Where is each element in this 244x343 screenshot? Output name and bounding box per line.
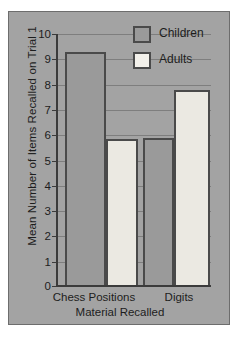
ytick-label-1: 1: [32, 257, 51, 269]
ytick-label-4: 4: [32, 181, 51, 193]
xtick-label-chess-positions: Chess Positions: [44, 291, 144, 303]
children-swatch-icon: [133, 26, 151, 43]
ytick-label-10: 10: [32, 29, 51, 41]
x-axis-line: [56, 285, 211, 287]
legend-label-children: Children: [159, 26, 204, 40]
ytick-label-7: 7: [32, 105, 51, 117]
ytick-label-3: 3: [32, 206, 51, 218]
y-axis-line: [56, 34, 58, 287]
bar-children-chess-positions[interactable]: [65, 52, 106, 287]
x-axis-title: Material Recalled: [9, 306, 231, 318]
xtick-label-digits: Digits: [144, 291, 214, 303]
ytick-label-5: 5: [32, 156, 51, 168]
bar-children-digits[interactable]: [143, 138, 174, 287]
ytick-label-9: 9: [32, 54, 51, 66]
legend-label-adults: Adults: [159, 52, 192, 66]
ytick-label-6: 6: [32, 130, 51, 142]
bar-adults-chess-positions[interactable]: [106, 139, 138, 287]
ytick-label-2: 2: [32, 231, 51, 243]
bar-chart-figure: Mean Number of Items Recalled on Trial 1…: [8, 11, 230, 325]
plot-area: 10 9 8 7 6 5 4 3 2 1 0: [56, 34, 211, 287]
adults-swatch-icon: [133, 52, 151, 69]
bar-adults-digits[interactable]: [174, 90, 210, 287]
ytick-label-8: 8: [32, 80, 51, 92]
